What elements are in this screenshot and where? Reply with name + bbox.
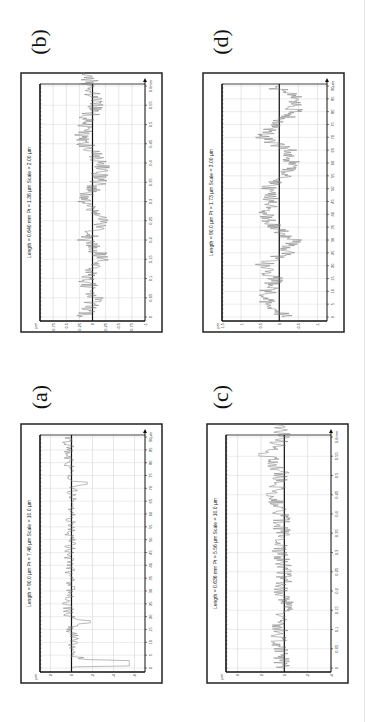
- x-tick-label: 5: [330, 302, 335, 305]
- x-tick-label: 0.5: [334, 472, 339, 478]
- x-tick-label: 0.6mm: [148, 79, 153, 92]
- x-tick-label: 25: [148, 601, 153, 606]
- x-tick-label: 50: [148, 537, 153, 542]
- x-tick-label: 0.2: [148, 236, 153, 242]
- x-tick-label: 20: [148, 614, 153, 619]
- x-tick-label: 0.3: [334, 549, 339, 555]
- y-tick-label: -2: [90, 673, 95, 677]
- x-tick-label: 0.2: [334, 587, 339, 593]
- y-tick-label: 4: [235, 673, 240, 676]
- y-tick-label: 0.5: [258, 322, 263, 328]
- chart-svg: Length = 90.0 µm Pt = 7.46 µm Scale = 10…: [20, 423, 163, 684]
- chart-svg: Length = 90.0 µm Pt = 1.73 µm Scale = 3.…: [202, 72, 345, 333]
- x-tick-label: 0: [330, 315, 335, 318]
- x-tick-label: 70: [330, 134, 335, 139]
- x-tick-label: 40: [330, 211, 335, 216]
- y-tick-label: 2: [259, 673, 264, 676]
- y-unit-label: µm: [33, 322, 38, 328]
- y-tick-label: -0.75: [129, 322, 134, 332]
- x-tick-label: 20: [330, 263, 335, 268]
- x-tick-label: 10: [330, 288, 335, 293]
- x-tick-label: 75: [330, 122, 335, 127]
- chart-svg: Length = 0.640 mm Pt = 1.36 µm Scale = 2…: [20, 72, 163, 333]
- x-tick-label: 0.4: [148, 159, 153, 165]
- x-tick-label: 65: [330, 147, 335, 152]
- x-tick-label: 0.35: [148, 178, 153, 187]
- y-tick-label: -2: [305, 673, 310, 677]
- y-tick-label: 0.75: [51, 322, 56, 331]
- x-tick-label: 55: [330, 173, 335, 178]
- y-tick-label: 0: [277, 322, 282, 325]
- x-tick-label: 0.55: [334, 452, 339, 461]
- x-tick-label: 35: [330, 224, 335, 229]
- x-tick-label: 0.15: [334, 606, 339, 615]
- x-tick-label: 50: [330, 186, 335, 191]
- y-tick-label: -1: [315, 322, 320, 326]
- y-tick-label: 1.5: [220, 322, 225, 328]
- y-tick-label: -4: [329, 673, 334, 677]
- x-tick-label: 5: [148, 653, 153, 656]
- y-tick-label: 0: [282, 673, 287, 676]
- panel-label-d: (d): [208, 22, 234, 62]
- x-tick-label: 70: [148, 485, 153, 490]
- chart-svg: Length = 0.636 mm Pt = 5.56 µm Scale = 1…: [206, 423, 349, 684]
- x-tick-label: 15: [148, 627, 153, 632]
- chart-title: Length = 90.0 µm Pt = 1.73 µm Scale = 3.…: [208, 149, 214, 256]
- x-tick-label: 90µm: [148, 431, 153, 442]
- x-tick-label: 90µm: [330, 80, 335, 91]
- y-tick-label: -0.5: [296, 322, 301, 330]
- x-tick-label: 0: [148, 315, 153, 318]
- y-tick-label: -4: [111, 673, 116, 677]
- chart-title: Length = 0.640 mm Pt = 1.36 µm Scale = 2…: [26, 147, 32, 258]
- x-tick-label: 0: [334, 666, 339, 669]
- x-tick-label: 10: [148, 639, 153, 644]
- x-tick-label: 80: [148, 460, 153, 465]
- x-tick-label: 15: [330, 276, 335, 281]
- y-tick-label: 0: [90, 322, 95, 325]
- x-tick-label: 30: [148, 588, 153, 593]
- chart-title: Length = 90.0 µm Pt = 7.46 µm Scale = 10…: [26, 500, 32, 607]
- x-tick-label: 25: [330, 250, 335, 255]
- panel-label-a: (a): [27, 377, 53, 417]
- x-tick-label: 85: [330, 96, 335, 101]
- page-edge-line: [364, 0, 365, 722]
- y-tick-label: 2: [48, 673, 53, 676]
- x-tick-label: 0.6mm: [334, 430, 339, 443]
- x-tick-label: 0.15: [148, 255, 153, 264]
- x-tick-label: 45: [330, 199, 335, 204]
- panel-label-c: (c): [208, 377, 234, 417]
- x-tick-label: 0.35: [334, 529, 339, 538]
- x-tick-label: 0.5: [148, 121, 153, 127]
- y-tick-label: 0: [69, 673, 74, 676]
- x-tick-label: 0.25: [148, 216, 153, 225]
- y-tick-label: 0.5: [64, 322, 69, 328]
- y-tick-label: -0.5: [116, 322, 121, 330]
- x-tick-label: 0.05: [334, 644, 339, 653]
- x-tick-label: 85: [148, 447, 153, 452]
- profile-chart-d: Length = 90.0 µm Pt = 1.73 µm Scale = 3.…: [202, 72, 345, 333]
- y-tick-label: 0.25: [77, 322, 82, 331]
- y-tick-label: -0.25: [103, 322, 108, 332]
- y-tick-label: -1: [143, 322, 148, 326]
- x-tick-label: 0.4: [334, 510, 339, 516]
- profile-chart-c: Length = 0.636 mm Pt = 5.56 µm Scale = 1…: [206, 423, 349, 684]
- x-tick-label: 0.1: [334, 626, 339, 632]
- panel-label-b: (b): [26, 22, 52, 62]
- chart-title: Length = 0.636 mm Pt = 5.56 µm Scale = 1…: [212, 498, 218, 609]
- y-unit-label: µm: [33, 673, 38, 679]
- x-tick-label: 0: [148, 666, 153, 669]
- x-tick-label: 60: [148, 511, 153, 516]
- x-tick-label: 30: [330, 237, 335, 242]
- x-tick-label: 55: [148, 524, 153, 529]
- x-tick-label: 0.45: [334, 490, 339, 499]
- y-unit-label: µm: [219, 673, 224, 679]
- x-tick-label: 60: [330, 160, 335, 165]
- x-tick-label: 0.25: [334, 567, 339, 576]
- profile-chart-a: Length = 90.0 µm Pt = 7.46 µm Scale = 10…: [20, 423, 163, 684]
- x-tick-label: 0.45: [148, 139, 153, 148]
- x-tick-label: 40: [148, 562, 153, 567]
- x-tick-label: 0.3: [148, 198, 153, 204]
- profile-chart-b: Length = 0.640 mm Pt = 1.36 µm Scale = 2…: [20, 72, 163, 333]
- x-tick-label: 80: [330, 109, 335, 114]
- x-tick-label: 0.05: [148, 293, 153, 302]
